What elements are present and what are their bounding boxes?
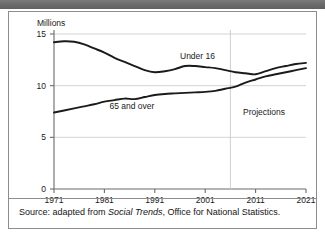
chart-gridlines [54, 34, 306, 137]
line-chart-svg [9, 12, 316, 198]
source-prefix: Source: adapted from [19, 207, 106, 217]
y-tick-label: 15 [28, 29, 46, 39]
chart-annotation: Projections [243, 107, 285, 117]
y-tick-label: 5 [28, 132, 46, 142]
source-publication-title: Social Trends [108, 207, 162, 217]
y-tick-label: 0 [28, 184, 46, 194]
chart-annotation: 65 and over [109, 101, 154, 111]
y-tick-label: 10 [28, 81, 46, 91]
source-suffix: , Office for National Statistics. [162, 207, 280, 217]
chart-annotation: Under 16 [180, 51, 215, 61]
source-footer: Source: adapted from Social Trends, Offi… [9, 198, 316, 228]
figure-panel: Millions 051015 197119811991200120112021… [8, 11, 317, 229]
source-note: Source: adapted from Social Trends, Offi… [19, 207, 280, 217]
window-header-band [0, 0, 325, 9]
chart-plot-area: Millions 051015 197119811991200120112021… [9, 12, 316, 198]
